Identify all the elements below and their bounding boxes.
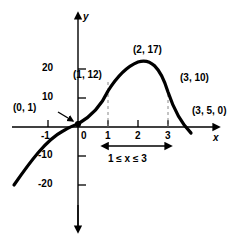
callout-arrow-0-1 xyxy=(58,112,73,121)
point-label-root: (3, 5, 0) xyxy=(192,106,226,116)
y-tick-label-neg20: -20 xyxy=(38,179,52,189)
x-axis-label: x xyxy=(213,133,219,143)
x-tick-label-neg1: -1 xyxy=(41,131,50,141)
y-axis-label: y xyxy=(83,12,89,22)
point-marker-0-1 xyxy=(75,121,81,127)
parabola-curve xyxy=(14,61,191,185)
y-tick-label-20: 20 xyxy=(42,63,53,73)
plot-area xyxy=(0,0,247,239)
range-annotation-label: 1 ≤ x ≤ 3 xyxy=(108,154,147,164)
y-tick-label-10: 10 xyxy=(42,92,53,102)
point-label-0-1: (0, 1) xyxy=(13,103,36,113)
y-tick-label-neg10: -10 xyxy=(38,150,52,160)
point-label-3-10: (3, 10) xyxy=(180,73,209,83)
x-tick-label-3: 3 xyxy=(165,131,171,141)
x-tick-label-1: 1 xyxy=(105,131,111,141)
x-tick-label-2: 2 xyxy=(135,131,141,141)
x-tick-label-0: 0 xyxy=(81,131,87,141)
graph-figure: 20 10 -10 -20 -1 0 1 2 3 y x (0, 1) (1, … xyxy=(0,0,247,239)
point-label-2-17: (2, 17) xyxy=(133,45,162,55)
point-label-1-12: (1, 12) xyxy=(73,70,102,80)
